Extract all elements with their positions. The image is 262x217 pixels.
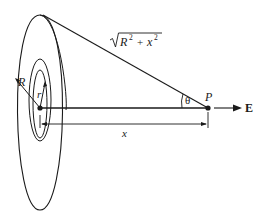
- angle-theta-arc: [181, 94, 183, 108]
- hypotenuse-x-exponent: 2: [154, 33, 158, 42]
- hypotenuse-label: R 2 + x 2: [110, 33, 162, 49]
- field-arrowhead: [233, 105, 242, 112]
- hypotenuse-plus-text: +: [137, 36, 143, 48]
- ring-radius-label: r: [37, 88, 42, 100]
- field-e-label: E: [245, 101, 253, 115]
- distance-x-label: x: [121, 127, 127, 139]
- point-p-dot: [205, 105, 210, 110]
- hypotenuse-x-text: x: [146, 35, 153, 49]
- distance-arrowhead-left: [41, 122, 47, 126]
- disk-field-diagram: R 2 + x 2 R r θ P E x: [0, 0, 262, 217]
- hypotenuse-r-exponent: 2: [129, 33, 133, 42]
- point-p-label: P: [204, 90, 213, 104]
- outer-disk-edge: [17, 15, 62, 210]
- outer-radius-label: R: [17, 75, 26, 89]
- disk-center-dot: [37, 105, 42, 110]
- distance-arrowhead-right: [201, 122, 207, 126]
- ring-radius-arrowhead: [43, 81, 47, 87]
- angle-label: θ: [185, 94, 190, 106]
- hypotenuse-line: [43, 15, 208, 108]
- hypotenuse-r-text: R: [119, 35, 128, 49]
- ring-outer: [29, 59, 51, 141]
